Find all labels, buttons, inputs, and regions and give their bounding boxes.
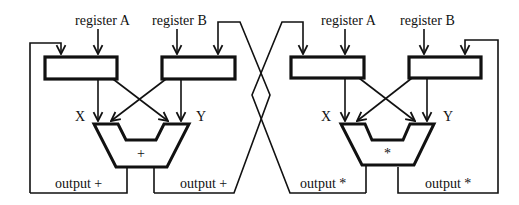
register-b-label: register B bbox=[152, 13, 207, 28]
register-b-label: register B bbox=[400, 13, 455, 28]
output-times-right-label: output * bbox=[425, 176, 471, 191]
register-a-box bbox=[45, 57, 117, 79]
wire-b-to-x bbox=[357, 78, 412, 121]
output-times-left-label: output * bbox=[300, 176, 346, 191]
wire-a-to-y bbox=[359, 78, 415, 121]
register-b-box bbox=[162, 57, 235, 79]
wire-a-to-y bbox=[113, 79, 168, 121]
wire-b-to-x bbox=[111, 79, 166, 121]
operand-y-label: Y bbox=[196, 109, 206, 124]
operator-times: * bbox=[384, 146, 391, 161]
operand-y-label: Y bbox=[443, 109, 453, 124]
output-plus-left-label: output + bbox=[55, 176, 102, 191]
feedback-wire-cross-left bbox=[252, 22, 366, 193]
operand-x-label: X bbox=[75, 109, 85, 124]
register-a-label: register A bbox=[321, 13, 377, 28]
operand-x-label: X bbox=[321, 109, 331, 124]
register-a-label: register A bbox=[75, 13, 131, 28]
feedback-wire-cross-right bbox=[154, 22, 270, 193]
multiplier-unit: register A register B X Y * output * out… bbox=[252, 13, 498, 193]
dual-alu-diagram: register A register B X Y + output + out… bbox=[0, 0, 519, 205]
register-b-box bbox=[409, 57, 481, 78]
adder-unit: register A register B X Y + output + out… bbox=[30, 13, 270, 193]
register-a-box bbox=[291, 57, 364, 78]
output-plus-right-label: output + bbox=[180, 176, 227, 191]
operator-plus: + bbox=[137, 146, 145, 161]
